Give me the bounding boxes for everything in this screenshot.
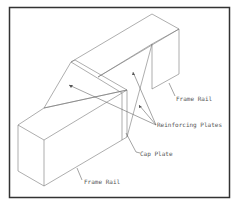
label-frame-rail-upper: Frame Rail	[176, 95, 213, 102]
drawing-border	[10, 8, 230, 198]
label-reinforcing-plates: Reinforcing Plates	[157, 121, 222, 129]
frame-rail-diagram: Frame Rail Reinforcing Plates Cap Plate …	[0, 0, 235, 206]
label-frame-rail-lower: Frame Rail	[84, 178, 121, 185]
label-cap-plate: Cap Plate	[140, 150, 173, 158]
reinforcing-plates	[44, 44, 152, 137]
cap-plate	[71, 60, 127, 140]
upper-frame-rail	[71, 14, 179, 89]
